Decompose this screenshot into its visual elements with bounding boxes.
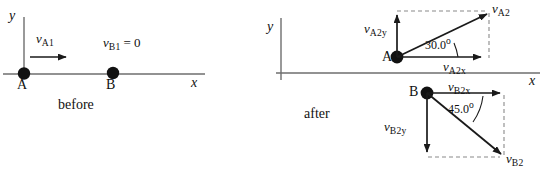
after-vector-v-b2y-label: vB2y [384, 120, 406, 133]
before-body-a-label: A [17, 78, 27, 92]
before-phase-label: before [58, 98, 94, 112]
after-angle-b2-label: 45.0o [448, 100, 474, 115]
before-vector-v-a1-label: vA1 [36, 32, 54, 45]
after-panel-graphics [276, 11, 540, 157]
after-x-axis-label: x [529, 74, 535, 88]
after-body-b-label: B [409, 85, 418, 99]
after-angle-a2-arc [454, 43, 458, 57]
after-phase-label: after [304, 107, 330, 121]
after-angle-b2-arc [473, 96, 483, 122]
before-y-axis-label: y [9, 9, 15, 23]
after-vector-v-a2y-label: vA2y [364, 22, 387, 35]
before-x-axis-label: x [191, 76, 197, 90]
collision-vector-figure: y x A B vA1 vB1= 0 before y x A B vA2 vA… [0, 0, 548, 179]
before-v-b1-zero-label: vB1= 0 [103, 36, 141, 49]
after-vector-v-a2-label: vA2 [492, 2, 510, 15]
after-vector-v-a2x-label: vA2x [443, 60, 466, 73]
before-body-b-label: B [106, 78, 115, 92]
after-vector-v-b2-label: vB2 [506, 152, 523, 165]
after-y-axis-label: y [267, 20, 273, 34]
after-angle-a2-label: 30.0o [425, 36, 451, 51]
after-body-a-label: A [382, 50, 392, 64]
after-vector-v-b2x-label: vB2x [448, 80, 470, 93]
